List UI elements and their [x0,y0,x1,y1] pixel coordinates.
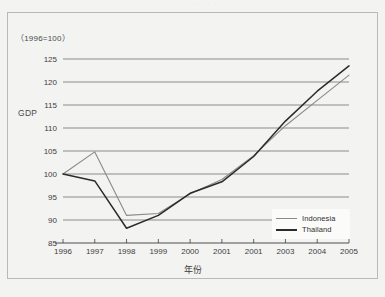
legend-swatch-thailand [276,229,297,231]
legend-swatch-indonesia [276,218,297,219]
data-series-group [63,66,349,228]
legend-label: Indonesia [302,214,335,223]
x-tick-label: 2005 [340,247,358,256]
legend-item-thailand: Thailand [272,224,348,235]
x-tick-label: 2004 [308,247,326,256]
y-axis-tick-labels: 859095100105110115120125 [44,55,58,248]
y-tick-label: 105 [44,147,58,156]
scanned-page: · · · · · · · · · · · （1996=100） GDP 年份 … [0,0,385,297]
x-tick-label: 2001 [213,247,231,256]
x-tick-label: 1999 [149,247,167,256]
y-tick-label: 90 [48,216,57,225]
y-tick-label: 120 [44,78,58,87]
y-tick-label: 100 [44,170,58,179]
chart-legend: IndonesiaThailand [272,209,350,239]
x-tick-label: 1998 [118,247,136,256]
x-tick-label: 1996 [54,247,72,256]
x-tick-label: 1997 [86,247,104,256]
x-axis-tick-labels: 1996199719981999200020012001200320042005 [54,247,358,256]
series-line-indonesia [63,75,349,215]
series-line-thailand [63,66,349,228]
x-tick-label: 2001 [245,247,263,256]
legend-item-indonesia: Indonesia [272,213,348,224]
x-tick-label: 2000 [181,247,199,256]
legend-label: Thailand [302,225,332,234]
y-tick-label: 125 [44,55,58,64]
y-tick-label: 115 [44,101,57,110]
line-chart-plot: 859095100105110115120125 199619971998199… [0,0,385,297]
x-tick-label: 2003 [277,247,295,256]
y-tick-label: 110 [44,124,57,133]
x-axis [55,239,349,243]
gridlines-group [63,59,349,220]
y-tick-label: 95 [48,193,57,202]
